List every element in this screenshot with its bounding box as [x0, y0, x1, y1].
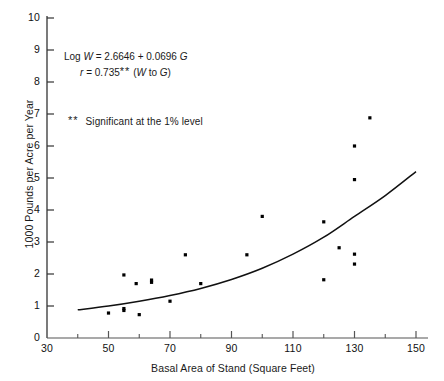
x-axis-tick-label: 150 — [403, 342, 429, 354]
x-axis-title: Basal Area of Stand (Square Feet) — [47, 362, 419, 374]
data-point — [322, 278, 325, 281]
data-point — [353, 144, 356, 147]
data-point — [338, 246, 341, 249]
x-axis-tick-label: 110 — [280, 342, 306, 354]
x-axis-tick-label: 130 — [342, 342, 368, 354]
data-point — [122, 309, 125, 312]
scatter-plot-figure: 012345678910 30507090110130150 1000 Poun… — [0, 0, 444, 381]
data-point — [199, 282, 202, 285]
equation-line-2: r = 0.735** (W to G) — [64, 64, 187, 80]
y-axis-ticks — [47, 18, 54, 306]
y-axis-tick-label: 8 — [18, 75, 40, 87]
data-point — [150, 281, 153, 284]
data-point — [138, 313, 141, 316]
data-point — [107, 311, 110, 314]
data-point-group — [107, 116, 372, 316]
data-point — [135, 282, 138, 285]
y-axis-tick-label: 10 — [18, 11, 40, 23]
x-axis-tick-label: 50 — [96, 342, 122, 354]
equation-tail-variable-w: W — [136, 67, 145, 78]
data-point — [245, 253, 248, 256]
y-axis-tick-label: 9 — [18, 43, 40, 55]
x-axis-tick-label: 30 — [34, 342, 60, 354]
equation-tail-variable-g: G — [160, 67, 168, 78]
data-point — [184, 253, 187, 256]
equation-line-1: Log W = 2.6646 + 0.0696 G — [64, 50, 187, 64]
x-axis-ticks — [78, 331, 416, 338]
equation-variable-w: W — [83, 51, 92, 62]
y-axis-tick-label: 2 — [18, 267, 40, 279]
significance-footnote: **Significant at the 1% level — [68, 114, 203, 127]
y-axis-title: 1000 Pounds per Acre per Year — [23, 89, 35, 259]
equation-variable-g: G — [180, 51, 188, 62]
y-axis-tick-label: 1 — [18, 299, 40, 311]
equation-variable-r: r — [80, 67, 83, 78]
data-point — [353, 178, 356, 181]
equation-tail-close: ) — [168, 67, 171, 78]
regression-equation-annotation: Log W = 2.6646 + 0.0696 G r = 0.735** (W… — [64, 50, 187, 80]
equation-tail-mid: to — [146, 67, 160, 78]
equation-log-prefix: Log — [64, 51, 81, 62]
data-point — [122, 273, 125, 276]
x-axis-tick-label: 90 — [219, 342, 245, 354]
equation-significance-stars: ** — [120, 65, 131, 77]
data-point — [322, 220, 325, 223]
regression-curve — [78, 172, 416, 310]
equation-body-2: = 0.735 — [86, 67, 120, 78]
data-point — [368, 116, 371, 119]
data-point — [353, 253, 356, 256]
significance-stars-marker: ** — [68, 114, 79, 126]
equation-body-1: = 2.6646 + 0.0696 — [96, 51, 177, 62]
significance-note-text: Significant at the 1% level — [86, 116, 203, 127]
x-axis-tick-label: 70 — [157, 342, 183, 354]
data-point — [168, 300, 171, 303]
data-point — [261, 215, 264, 218]
data-point — [353, 262, 356, 265]
